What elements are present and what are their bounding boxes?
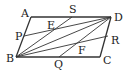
inner-segments (16, 17, 111, 57)
label-e: E (47, 19, 55, 32)
label-a: A (20, 7, 30, 20)
label-p: P (15, 30, 23, 43)
label-q: Q (54, 58, 63, 71)
label-r: R (111, 34, 120, 47)
label-b: B (6, 52, 14, 65)
label-d: D (114, 11, 123, 24)
label-f: F (78, 44, 86, 57)
label-c: C (103, 54, 111, 67)
segment-br (16, 36, 108, 57)
parallelogram-diagram: A S D E P R F B Q C (0, 0, 129, 77)
label-s: S (69, 3, 77, 16)
